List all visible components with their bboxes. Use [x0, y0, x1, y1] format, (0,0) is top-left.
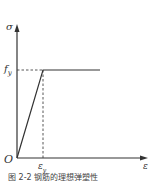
stress-strain-curve [17, 70, 100, 158]
x-axis-arrow [140, 156, 148, 161]
fy-label: fy [4, 64, 12, 77]
stress-strain-diagram [0, 0, 156, 181]
x-axis-label: ε [143, 162, 148, 171]
figure-caption: 图 2-2 钢筋的理想弹塑性 [8, 171, 98, 181]
y-axis-label: σ [6, 22, 13, 32]
origin-label: O [4, 154, 13, 165]
y-axis-arrow [15, 24, 20, 32]
